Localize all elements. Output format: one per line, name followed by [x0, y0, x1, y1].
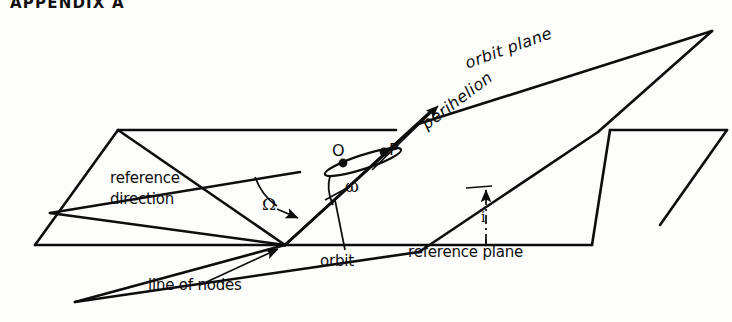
label-longitude-ascending-node: Ω — [262, 196, 276, 214]
label-orbit: orbit — [320, 254, 354, 270]
label-line-of-nodes: line of nodes — [148, 278, 242, 294]
reference-plane-left-edge — [35, 130, 118, 245]
orbit-plane-left-return — [75, 252, 419, 302]
label-reference-direction-line1: reference — [110, 171, 180, 187]
reference-plane-far-right-slant — [660, 130, 727, 225]
label-argument-of-perihelion: ω — [345, 178, 359, 196]
omega-cap-arrow — [277, 209, 298, 218]
label-reference-plane: reference plane — [408, 245, 523, 261]
orbit-plane-right-edge — [598, 31, 712, 132]
label-inclination: i — [481, 210, 485, 225]
label-point-o: O — [332, 143, 345, 160]
orbit-leader — [335, 200, 345, 250]
page-canvas: APPENDIX A — [0, 0, 732, 322]
orbital-elements-figure — [0, 0, 732, 322]
inclination-tick — [466, 186, 492, 188]
label-point-p: P — [389, 142, 399, 159]
reference-plane-right-edge — [592, 130, 610, 245]
reference-direction-line — [50, 213, 285, 245]
orbit-plane-lower-right-edge — [419, 132, 598, 252]
orbit-plane-top-edge — [418, 31, 712, 124]
label-reference-direction-line2: direction — [110, 192, 174, 208]
